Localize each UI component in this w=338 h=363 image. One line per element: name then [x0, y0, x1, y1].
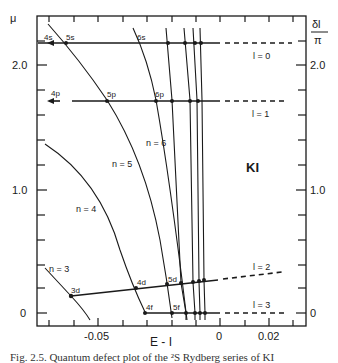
y-tick-label-2: 2.0 [12, 59, 27, 71]
label-n5: n = 5 [112, 159, 132, 169]
l2-line-dashed [223, 272, 282, 279]
label-l3: l = 3 [253, 300, 270, 310]
right-tick-label-0: 0 [310, 307, 316, 319]
curve-n4 [45, 144, 145, 312]
label-n3: n = 3 [49, 264, 69, 274]
label-n4: n = 4 [76, 204, 96, 214]
right-tick-label-1: 1.0 [310, 184, 325, 196]
label-l0: l = 0 [253, 51, 270, 61]
curve-n10 [200, 28, 205, 320]
x-tick-label-neg005: -0.05 [84, 330, 109, 342]
label-6p: 6p [155, 90, 164, 99]
figure-caption: Fig. 2.5. Quantum defect plot of the ²S … [10, 351, 274, 363]
right-tick-label-2: 2.0 [310, 59, 325, 71]
right-y-ticks [296, 41, 306, 313]
system-label-ki: KI [246, 160, 259, 175]
x-ticks-bottom [49, 318, 293, 326]
label-n6: n = 6 [146, 138, 166, 148]
label-5d: 5d [168, 275, 177, 284]
label-4d: 4d [137, 278, 146, 287]
label-4p: 4p [51, 89, 60, 98]
curve-n9 [193, 28, 200, 320]
y-tick-label-1: 1.0 [12, 184, 27, 196]
right-axis-title-den: π [314, 34, 322, 46]
label-5s: 5s [66, 33, 74, 42]
y-tick-label-0: 0 [20, 307, 26, 319]
right-axis-title-num: δl [312, 18, 321, 30]
label-4f: 4f [146, 303, 153, 312]
curve-n6 [133, 28, 187, 320]
left-y-ticks [37, 41, 47, 313]
label-l1: l = 1 [252, 109, 269, 119]
x-ticks-top [49, 16, 293, 22]
label-5f: 5f [173, 303, 180, 312]
x-axis-title: E - I [150, 335, 172, 349]
label-3d: 3d [71, 286, 80, 295]
x-tick-label-002: 0.02 [258, 330, 279, 342]
label-6s: 6s [137, 33, 145, 42]
intersection-points [64, 41, 207, 315]
label-5p: 5p [107, 90, 116, 99]
label-l2: l = 2 [253, 262, 270, 272]
x-tick-label-0: 0 [216, 330, 222, 342]
y-axis-title-mu: μ [10, 12, 16, 24]
curve-n8 [184, 28, 195, 320]
label-4s: 4s [44, 33, 52, 42]
